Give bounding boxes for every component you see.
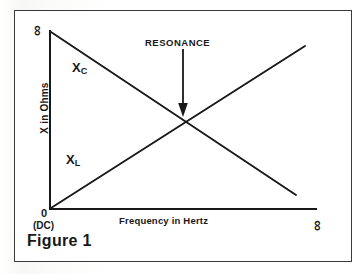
y-axis-infinity-icon: ∞ xyxy=(31,25,46,36)
xc-label-subscript: C xyxy=(81,66,88,76)
xl-curve-label: XL xyxy=(66,153,80,168)
xc-label-base: X xyxy=(72,60,81,75)
xl-curve xyxy=(51,46,305,208)
x-axis-infinity-icon: ∞ xyxy=(311,220,326,231)
x-axis-title: Frequency in Hertz xyxy=(119,216,208,226)
origin-zero-label: 0 xyxy=(41,208,47,219)
origin-dc-label: (DC) xyxy=(33,221,54,231)
xc-curve-label: XC xyxy=(72,61,87,76)
figure-frame: ∞ ∞ X in Ohms Frequency in Hertz 0 (DC) … xyxy=(14,10,352,262)
xc-curve xyxy=(51,32,296,195)
resonance-arrow-head xyxy=(178,103,188,117)
plot-area: ∞ ∞ X in Ohms Frequency in Hertz 0 (DC) … xyxy=(15,11,351,261)
figure-screenshot: ∞ ∞ X in Ohms Frequency in Hertz 0 (DC) … xyxy=(0,0,364,274)
figure-caption: Figure 1 xyxy=(27,233,92,249)
resonance-label: RESONANCE xyxy=(145,38,210,48)
y-axis-title: X in Ohms xyxy=(40,65,50,151)
xl-label-subscript: L xyxy=(75,158,81,168)
xl-label-base: X xyxy=(66,152,75,167)
